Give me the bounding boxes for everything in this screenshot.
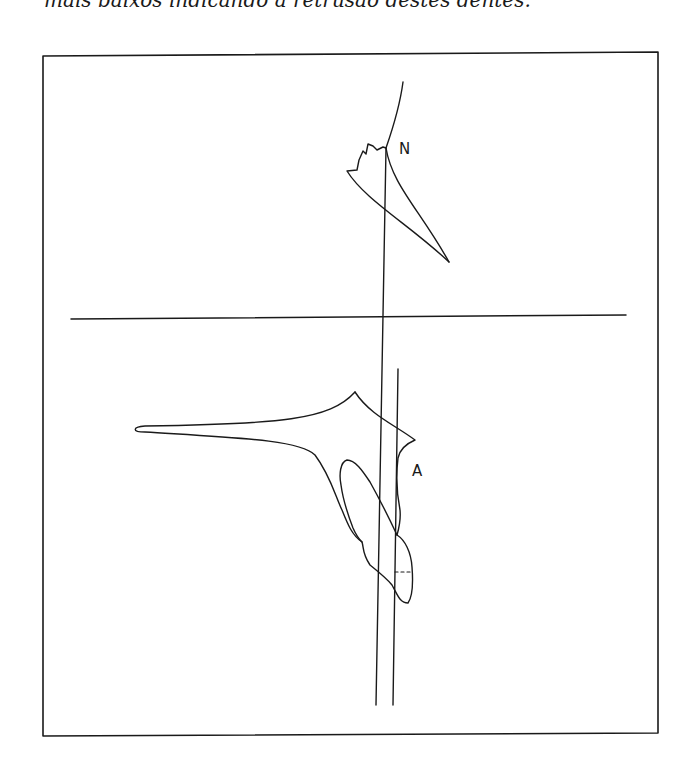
cephalometric-diagram: N A — [0, 0, 682, 771]
maxilla-outline — [135, 392, 412, 603]
point-label-n: N — [399, 140, 410, 158]
nasal-bone-outline — [347, 144, 449, 262]
nasion-perpendicular-line — [376, 148, 386, 705]
figure-frame — [43, 52, 658, 736]
incisor-outline — [340, 460, 397, 542]
point-label-a: A — [412, 462, 423, 480]
maxilla-anterior-outline — [355, 392, 415, 535]
a-point-vertical-line — [393, 369, 398, 705]
horizontal-reference-line — [71, 315, 626, 319]
